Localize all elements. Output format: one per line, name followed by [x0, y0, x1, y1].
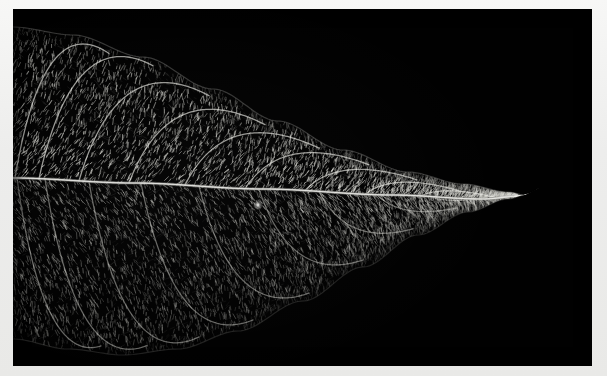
leaf-venation-render [13, 9, 592, 366]
leaf-darkfield-photo [13, 9, 592, 366]
image-canvas: Dark-field photograph of a cleared leaf … [0, 0, 607, 376]
